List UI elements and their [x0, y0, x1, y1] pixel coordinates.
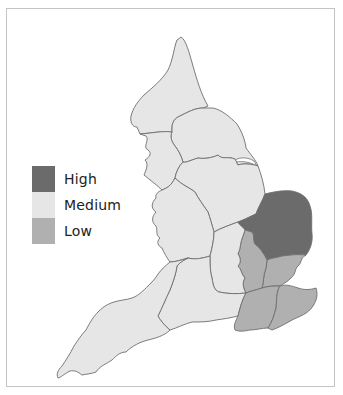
legend-item-medium: Medium	[32, 192, 121, 218]
legend-item-high: High	[32, 166, 121, 192]
legend: High Medium Low	[32, 166, 121, 244]
legend-item-low: Low	[32, 218, 121, 244]
legend-label-low: Low	[64, 223, 92, 239]
legend-label-high: High	[64, 171, 97, 187]
legend-label-medium: Medium	[64, 197, 121, 213]
legend-swatch-low	[32, 218, 55, 244]
legend-swatch-medium	[32, 192, 55, 218]
region-east-of-england-south[interactable]	[262, 255, 306, 288]
legend-swatch-high	[32, 166, 55, 192]
